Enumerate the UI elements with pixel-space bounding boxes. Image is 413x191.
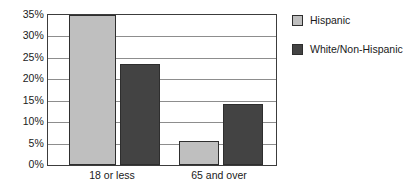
y-tick-label: 20%	[2, 73, 44, 84]
bars-layer	[48, 15, 276, 165]
x-tick-label-65-and-over: 65 and over	[164, 169, 274, 182]
legend-swatch-icon	[292, 15, 303, 26]
bar-65-and-over-white-non-hispanic	[223, 104, 263, 165]
legend-swatch-icon	[292, 44, 303, 55]
y-axis: 35% 30% 25% 20% 15% 10% 5% 0%	[0, 0, 44, 191]
bar-18-or-less-white-non-hispanic	[120, 64, 160, 165]
y-tick-label: 5%	[2, 138, 44, 149]
legend-item-hispanic: Hispanic	[292, 14, 413, 26]
legend-label: Hispanic	[310, 14, 350, 26]
y-tick-label: 10%	[2, 116, 44, 127]
legend: Hispanic White/Non-Hispanic	[292, 14, 413, 72]
plot-area	[47, 14, 277, 166]
bar-18-or-less-hispanic	[69, 15, 116, 165]
y-tick-label: 0%	[2, 159, 44, 170]
bar-65-and-over-hispanic	[179, 141, 219, 165]
y-tick-label: 30%	[2, 30, 44, 41]
x-tick-label-18-or-less: 18 or less	[57, 169, 167, 182]
bar-chart: 35% 30% 25% 20% 15% 10% 5% 0% 18 or less…	[0, 0, 413, 191]
legend-item-white-non-hispanic: White/Non-Hispanic	[292, 43, 413, 55]
y-tick-label: 15%	[2, 95, 44, 106]
legend-label: White/Non-Hispanic	[310, 43, 403, 55]
y-tick-label: 25%	[2, 52, 44, 63]
x-axis: 18 or less 65 and over	[47, 169, 277, 187]
y-tick-label: 35%	[2, 9, 44, 20]
